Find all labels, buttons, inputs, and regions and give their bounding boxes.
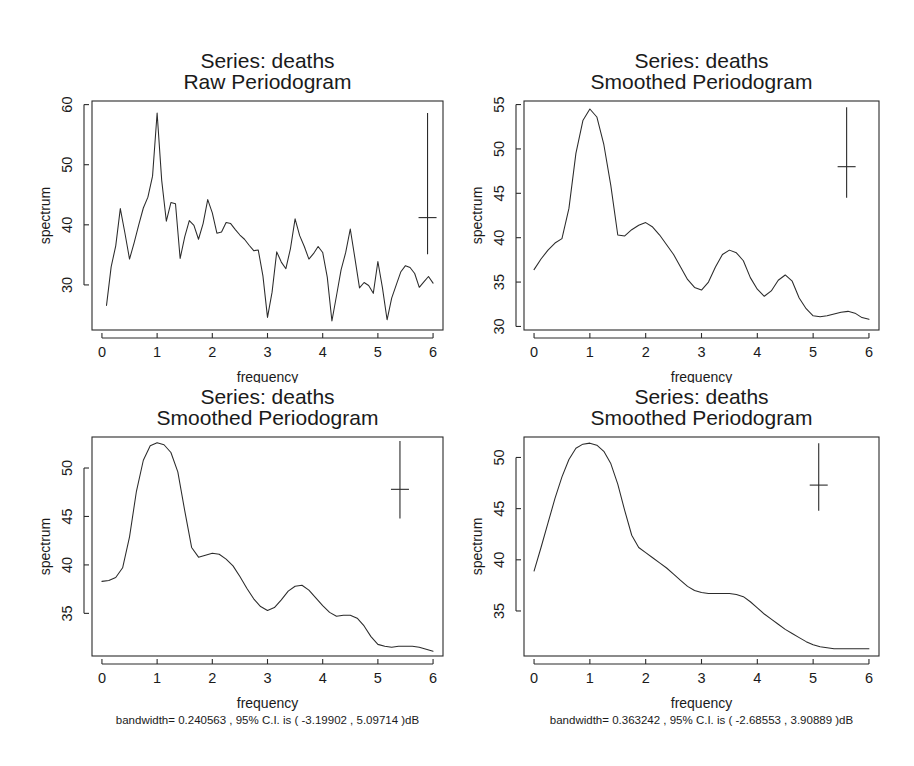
panel-top-right: Series: deathsSmoothed Periodogram012345… [457,18,914,383]
x-axis-title: frequency [671,369,732,383]
y-tick-label: 50 [491,449,507,465]
x-axis-title: frequency [237,695,298,711]
x-tick-label: 4 [319,344,327,360]
x-tick-label: 6 [429,344,437,360]
x-tick-label: 4 [753,344,761,360]
x-tick-label: 2 [642,670,650,686]
y-tick-label: 40 [491,230,507,246]
x-axis-title: frequency [237,369,298,383]
panel-subtitle: Smoothed Periodogram [591,406,813,429]
x-axis-title: frequency [671,695,732,711]
plot-frame [92,437,443,656]
panel-bottom-right: Series: deathsSmoothed Periodogram012345… [457,383,914,766]
y-tick-label: 35 [491,274,507,290]
x-tick-label: 0 [530,670,538,686]
x-tick-label: 3 [697,670,705,686]
panel-title: Series: deaths [200,385,334,408]
x-tick-label: 5 [809,344,817,360]
plot-frame [524,101,879,330]
panel-caption: bandwidth= 0.240563 , 95% C.I. is ( -3.1… [116,714,420,726]
panel-bottom-left: Series: deathsSmoothed Periodogram012345… [0,383,457,766]
x-tick-label: 2 [208,344,216,360]
x-tick-label: 1 [586,344,594,360]
x-tick-label: 6 [865,344,873,360]
panel-subtitle: Raw Periodogram [183,70,351,93]
x-tick-label: 4 [319,670,327,686]
y-tick-label: 35 [59,605,75,621]
y-tick-label: 35 [491,603,507,619]
plot-frame [92,101,443,330]
x-tick-label: 4 [753,670,761,686]
panel-title: Series: deaths [634,49,768,72]
x-tick-label: 2 [208,670,216,686]
y-tick-label: 40 [59,217,75,233]
y-axis-title: spectrum [37,518,53,576]
x-tick-label: 6 [865,670,873,686]
panel-top-left: Series: deathsRaw Periodogram01234563040… [0,18,457,383]
y-tick-label: 45 [491,185,507,201]
x-tick-label: 3 [263,344,271,360]
y-axis-title: spectrum [469,187,485,245]
y-tick-label: 45 [59,508,75,524]
spectrum-line [102,443,433,651]
x-tick-label: 0 [98,344,106,360]
y-axis-title: spectrum [37,187,53,245]
y-tick-label: 45 [491,501,507,517]
spectrum-line [107,113,434,321]
x-tick-label: 5 [374,344,382,360]
panel-title: Series: deaths [634,385,768,408]
y-tick-label: 30 [491,318,507,334]
panel-subtitle: Smoothed Periodogram [591,70,813,93]
x-tick-label: 2 [642,344,650,360]
x-tick-label: 5 [374,670,382,686]
x-tick-label: 5 [809,670,817,686]
x-tick-label: 6 [429,670,437,686]
y-tick-label: 40 [59,557,75,573]
y-axis-title: spectrum [469,518,485,576]
x-tick-label: 0 [530,344,538,360]
panel-subtitle: Smoothed Periodogram [157,406,379,429]
panel-title: Series: deaths [200,49,334,72]
x-tick-label: 0 [98,670,106,686]
spectrum-line [534,109,869,319]
y-tick-label: 30 [59,277,75,293]
y-tick-label: 40 [491,552,507,568]
periodogram-figure: Series: deathsRaw Periodogram01234563040… [0,0,914,766]
x-tick-label: 1 [586,670,594,686]
x-tick-label: 1 [153,344,161,360]
panel-caption: bandwidth= 0.363242 , 95% C.I. is ( -2.6… [550,714,854,726]
x-tick-label: 1 [153,670,161,686]
plot-frame [524,437,879,656]
x-tick-label: 3 [263,670,271,686]
y-tick-label: 50 [491,141,507,157]
y-tick-label: 60 [59,97,75,113]
y-tick-label: 55 [491,96,507,112]
y-tick-label: 50 [59,157,75,173]
y-tick-label: 50 [59,460,75,476]
x-tick-label: 3 [697,344,705,360]
